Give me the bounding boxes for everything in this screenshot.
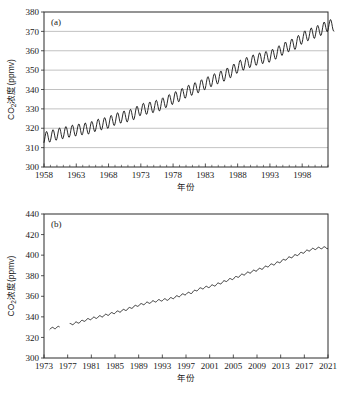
y-tick-label: 350: [26, 65, 40, 75]
svg-text:CO2浓度(ppmv): CO2浓度(ppmv): [6, 255, 17, 316]
y-tick-label: 380: [26, 7, 40, 17]
y-axis-title: CO2浓度(ppmv): [6, 255, 17, 316]
x-tick-label: 2017: [295, 361, 314, 371]
x-tick-label: 2001: [201, 361, 219, 371]
svg-text:CO2浓度(ppmv): CO2浓度(ppmv): [6, 59, 17, 120]
y-axis-title-rest: 浓度(ppmv): [6, 59, 16, 104]
x-tick-label: 1978: [164, 170, 183, 180]
x-axis-title: 年份: [177, 373, 195, 383]
x-axis-title: 年份: [177, 182, 195, 192]
x-tick-label: 1988: [229, 170, 248, 180]
x-tick-label: 2013: [272, 361, 291, 371]
plot-area: 3003203403603804004204401973197719811985…: [6, 209, 337, 383]
x-tick-label: 1968: [100, 170, 119, 180]
y-tick-label: 360: [26, 291, 40, 301]
y-tick-label: 420: [26, 230, 40, 240]
x-tick-label: 1973: [132, 170, 151, 180]
x-tick-label: 1963: [67, 170, 86, 180]
x-tick-label: 1977: [59, 361, 78, 371]
y-axis-title-rest: 浓度(ppmv): [6, 255, 16, 300]
panel-tag-label: (a): [51, 17, 61, 27]
x-tick-label: 1997: [177, 361, 196, 371]
x-tick-label: 1985: [106, 361, 125, 371]
plot-area: 3003103203303403503603703801958196319681…: [6, 7, 334, 192]
y-axis-title-co: CO: [6, 107, 16, 120]
y-tick-label: 440: [26, 209, 40, 219]
y-axis-title: CO2浓度(ppmv): [6, 59, 17, 120]
x-tick-label: 2005: [224, 361, 243, 371]
x-tick-label: 1973: [35, 361, 54, 371]
chart-panel-b: 3003203403603804004204401973197719811985…: [0, 200, 338, 400]
x-tick-label: 1989: [130, 361, 149, 371]
y-tick-label: 330: [26, 104, 40, 114]
x-tick-label: 1998: [293, 170, 312, 180]
chart-panel-a: 3003103203303403503603703801958196319681…: [0, 0, 338, 205]
y-axis-title-co: CO: [6, 303, 16, 316]
panel-b-plot: 3003203403603804004204401973197719811985…: [0, 200, 338, 400]
x-tick-label: 1993: [153, 361, 172, 371]
x-tick-label: 2021: [319, 361, 337, 371]
y-tick-label: 320: [26, 333, 40, 343]
x-tick-label: 1983: [196, 170, 215, 180]
plot-frame: [44, 214, 328, 358]
y-tick-label: 340: [26, 312, 40, 322]
data-series-line: [70, 247, 327, 325]
y-tick-label: 380: [26, 271, 40, 281]
y-tick-label: 340: [26, 85, 40, 95]
y-tick-label: 400: [26, 250, 40, 260]
data-series-line: [50, 326, 59, 329]
x-tick-label: 1993: [261, 170, 280, 180]
x-tick-label: 1981: [82, 361, 100, 371]
data-series-line: [44, 20, 334, 143]
co2-concentration-figure: 3003103203303403503603703801958196319681…: [0, 0, 338, 400]
y-tick-label: 320: [26, 123, 40, 133]
y-tick-label: 360: [26, 46, 40, 56]
panel-a-plot: 3003103203303403503603703801958196319681…: [0, 0, 338, 205]
panel-tag-label: (b): [51, 219, 62, 229]
y-tick-label: 370: [26, 27, 40, 37]
x-tick-label: 1958: [35, 170, 54, 180]
y-tick-label: 310: [26, 143, 40, 153]
x-tick-label: 2009: [248, 361, 267, 371]
